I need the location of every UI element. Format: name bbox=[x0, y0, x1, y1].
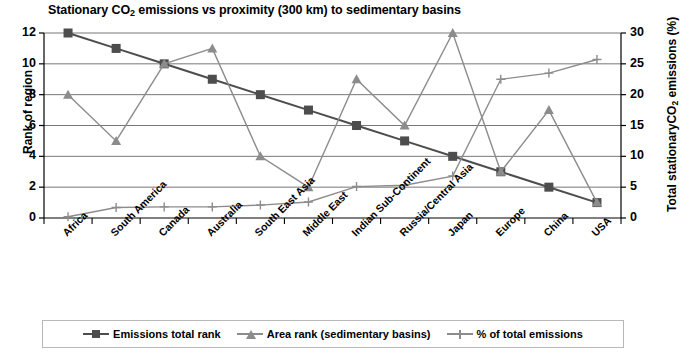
plot-area bbox=[0, 0, 683, 352]
y-axis-left-tick-label: 4 bbox=[10, 148, 36, 162]
data-point-marker bbox=[207, 43, 217, 52]
data-point-marker bbox=[256, 201, 265, 210]
y-axis-left-tick-label: 8 bbox=[10, 87, 36, 101]
y-axis-right-tick-label: 30 bbox=[630, 25, 660, 39]
data-point-marker bbox=[208, 202, 217, 211]
data-point-marker bbox=[208, 75, 217, 84]
y-axis-right-tick-label: 10 bbox=[630, 148, 660, 162]
data-point-marker bbox=[544, 69, 553, 78]
data-point-marker bbox=[256, 90, 265, 99]
data-point-marker bbox=[352, 121, 361, 130]
y-axis-left-tick-label: 0 bbox=[10, 210, 36, 224]
chart-legend: Emissions total rankArea rank (sedimenta… bbox=[42, 320, 624, 348]
y-axis-right-tick-label: 0 bbox=[630, 210, 660, 224]
y-axis-right-tick-label: 5 bbox=[630, 179, 660, 193]
data-point-marker bbox=[352, 74, 362, 83]
data-point-marker bbox=[112, 203, 121, 212]
legend-marker-icon bbox=[447, 328, 473, 340]
y-axis-left-tick-label: 10 bbox=[10, 56, 36, 70]
data-point-marker bbox=[352, 182, 361, 191]
y-axis-right-tick-label: 25 bbox=[630, 56, 660, 70]
data-point-marker bbox=[544, 183, 553, 192]
legend-label: % of total emissions bbox=[477, 328, 583, 340]
y-axis-left-tick-label: 12 bbox=[10, 25, 36, 39]
legend-label: Area rank (sedimentary basins) bbox=[267, 328, 431, 340]
y-axis-right-tick-label: 20 bbox=[630, 87, 660, 101]
data-point-marker bbox=[592, 55, 601, 64]
y-axis-left-tick-label: 2 bbox=[10, 179, 36, 193]
data-point-marker bbox=[304, 106, 313, 115]
y-axis-left-tick-label: 6 bbox=[10, 118, 36, 132]
data-point-marker bbox=[448, 152, 457, 161]
series-line-1 bbox=[68, 33, 597, 203]
data-point-marker bbox=[304, 197, 313, 206]
data-point-marker bbox=[544, 105, 554, 114]
y-axis-right-tick-label: 15 bbox=[630, 118, 660, 132]
legend-marker-icon bbox=[237, 328, 263, 340]
data-point-marker bbox=[160, 202, 169, 211]
data-point-marker bbox=[64, 29, 73, 38]
data-point-marker bbox=[400, 136, 409, 145]
legend-item[interactable]: Area rank (sedimentary basins) bbox=[237, 328, 431, 340]
legend-item[interactable]: Emissions total rank bbox=[83, 328, 221, 340]
data-point-marker bbox=[112, 44, 121, 53]
legend-item[interactable]: % of total emissions bbox=[447, 328, 583, 340]
chart-container: Stationary CO2 emissions vs proximity (3… bbox=[0, 0, 683, 352]
legend-label: Emissions total rank bbox=[113, 328, 221, 340]
data-point-marker bbox=[496, 75, 505, 84]
legend-marker-icon bbox=[83, 328, 109, 340]
